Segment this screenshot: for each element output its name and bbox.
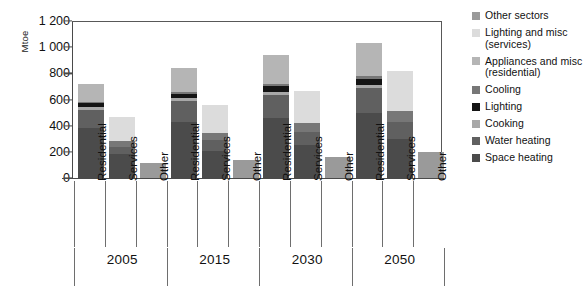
y-axis-tick-label: 200 — [0, 145, 70, 159]
legend-swatch-icon — [472, 137, 480, 145]
legend-item[interactable]: Water heating — [472, 135, 586, 147]
legend: Other sectorsLighting and misc (services… — [472, 10, 586, 169]
group-separator — [259, 248, 260, 286]
x-axis-category-label: Services — [405, 89, 417, 181]
x-axis-category-label: Other — [158, 89, 170, 181]
category-separator — [382, 181, 383, 247]
y-axis-tick-mark — [64, 99, 72, 100]
legend-item[interactable]: Other sectors — [472, 10, 586, 22]
category-separator — [321, 181, 322, 247]
x-axis-category-label: Services — [220, 89, 232, 181]
group-separator — [352, 248, 353, 286]
legend-label: Lighting — [485, 101, 522, 113]
y-axis-tick-label: 0 — [0, 171, 70, 185]
y-axis-tick-mark — [64, 20, 72, 21]
category-separator — [413, 181, 414, 247]
legend-item[interactable]: Appliances and misc (residential) — [472, 56, 586, 79]
x-axis-group-label: 2030 — [259, 252, 355, 267]
category-separator — [105, 181, 106, 247]
y-axis-tick-mark — [64, 151, 72, 152]
y-axis-tick-label: 1 000 — [0, 40, 70, 54]
stacked-bar-chart: Mtoe 1 2001 0008006004002000 Residential… — [0, 0, 586, 297]
legend-item[interactable]: Lighting and misc (services) — [472, 27, 586, 50]
x-axis-category-label: Residential — [374, 89, 386, 181]
category-separator — [290, 181, 291, 247]
group-separator — [74, 248, 75, 286]
x-axis-category-label: Residential — [96, 89, 108, 181]
x-axis-category-label: Other — [343, 89, 355, 181]
legend-swatch-icon — [472, 12, 480, 20]
y-axis-tick-label: 600 — [0, 93, 70, 107]
y-axis-tick-mark — [64, 125, 72, 126]
group-separator — [167, 248, 168, 286]
y-axis-tick-mark — [64, 73, 72, 74]
legend-label: Cooking — [485, 118, 524, 130]
legend-swatch-icon — [472, 154, 480, 162]
x-axis-category-label: Residential — [281, 89, 293, 181]
legend-swatch-icon — [472, 86, 480, 94]
category-separator — [197, 181, 198, 247]
category-separator — [228, 181, 229, 247]
y-axis-tick-label: 400 — [0, 119, 70, 133]
x-axis-group-label: 2005 — [74, 252, 170, 267]
legend-swatch-icon — [472, 103, 480, 111]
y-axis-tick-label: 800 — [0, 66, 70, 80]
group-separator — [444, 248, 445, 286]
legend-swatch-icon — [472, 57, 480, 65]
legend-label: Water heating — [485, 135, 551, 147]
bar-segment — [356, 43, 382, 76]
legend-swatch-icon — [472, 120, 480, 128]
legend-item[interactable]: Lighting — [472, 101, 586, 113]
legend-label: Lighting and misc (services) — [485, 27, 586, 50]
category-separator — [167, 181, 168, 247]
x-axis-category-label: Other — [251, 89, 263, 181]
legend-label: Space heating — [485, 152, 553, 164]
plot-frame-top — [72, 21, 442, 22]
x-axis-category-label: Residential — [189, 89, 201, 181]
legend-label: Cooling — [485, 84, 521, 96]
legend-swatch-icon — [472, 29, 480, 37]
category-separator — [352, 181, 353, 247]
category-separator — [259, 181, 260, 247]
legend-item[interactable]: Cooling — [472, 84, 586, 96]
x-axis-category-label: Services — [312, 89, 324, 181]
category-separator — [136, 181, 137, 247]
x-axis-group-label: 2050 — [352, 252, 448, 267]
legend-item[interactable]: Space heating — [472, 152, 586, 164]
x-axis-category-label: Services — [127, 89, 139, 181]
y-axis-tick-label: 1 200 — [0, 14, 70, 28]
bar-segment — [263, 55, 289, 84]
category-separator — [74, 181, 75, 247]
legend-label: Appliances and misc (residential) — [485, 56, 586, 79]
legend-label: Other sectors — [485, 10, 549, 22]
x-axis-category-label: Other — [436, 89, 448, 181]
y-axis-tick-mark — [64, 47, 72, 48]
legend-item[interactable]: Cooking — [472, 118, 586, 130]
x-axis-group-label: 2015 — [167, 252, 263, 267]
